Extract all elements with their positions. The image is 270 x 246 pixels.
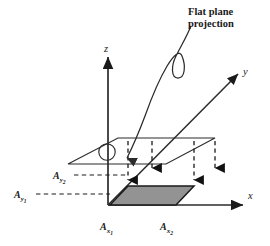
y-axis-label: y [243, 66, 248, 77]
area-label-ax2: Ax2 [160, 221, 173, 236]
area-label-ay1-base: A [14, 189, 21, 200]
area-label-ax2-base: A [160, 221, 167, 232]
area-label-ay1: Ay1 [14, 189, 27, 204]
callout-label-line1: Flat plane [188, 6, 233, 17]
projected-area-fill [110, 186, 194, 205]
callout-label-line2: projection [188, 18, 234, 29]
z-axis-label: z [104, 43, 108, 54]
figure-canvas: Flat plane projection z y x Ay2 Ay1 Ax1 … [0, 0, 270, 246]
area-label-ax1-subsub: 1 [110, 230, 113, 236]
x-axis-label: x [248, 190, 253, 201]
area-label-ay2-subsub: 2 [63, 179, 66, 185]
flat-plane [68, 138, 215, 164]
area-label-ax1-base: A [100, 221, 107, 232]
area-label-ax2-subsub: 2 [170, 230, 173, 236]
projected-area-patch [110, 186, 194, 205]
area-label-ay1-subsub: 1 [24, 198, 27, 204]
area-label-ay2: Ay2 [53, 170, 66, 185]
diagram-vector-layer [0, 0, 270, 246]
area-label-ay2-base: A [53, 170, 60, 181]
area-guide-lines [36, 175, 126, 194]
callout-label: Flat plane projection [188, 6, 266, 31]
area-label-ax1: Ax1 [100, 221, 113, 236]
flat-plane-outline [68, 138, 215, 164]
